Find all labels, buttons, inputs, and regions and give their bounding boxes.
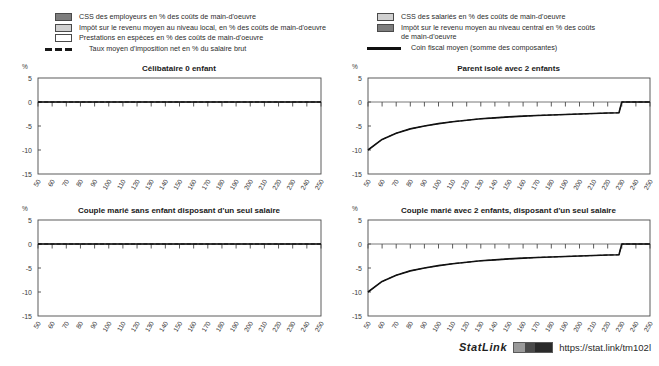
statlink-block[interactable]: StatLink https://stat.link/tm102l [459, 341, 651, 353]
svg-text:100: 100 [431, 320, 443, 333]
light-gray-swatch-icon [377, 13, 394, 21]
statlink-url-link[interactable]: https://stat.link/tm102l [559, 342, 651, 353]
svg-text:50: 50 [362, 178, 372, 188]
svg-text:150: 150 [501, 320, 513, 333]
svg-text:150: 150 [172, 320, 184, 333]
svg-text:210: 210 [586, 178, 598, 191]
svg-text:200: 200 [572, 178, 584, 191]
dashed-line-icon [55, 48, 72, 51]
svg-text:230: 230 [285, 320, 297, 333]
svg-text:240: 240 [628, 178, 640, 191]
svg-text:250: 250 [642, 178, 654, 191]
chart-panel-parent-isole-2-enfants: % Parent isolé avec 2 enfants 50-5-10-15… [330, 62, 659, 202]
svg-text:130: 130 [473, 178, 485, 191]
svg-text:130: 130 [143, 178, 155, 191]
legend-item-taux-moyen: Taux moyen d'imposition net en % du sala… [55, 44, 335, 54]
statlink-barcode-icon [513, 342, 553, 353]
svg-text:200: 200 [243, 178, 255, 191]
svg-text:90: 90 [89, 320, 99, 330]
chart-plot-0: 50-5-10-15506070809010011012013014015016… [0, 62, 330, 202]
dark-gray-swatch-icon [55, 13, 72, 21]
legend-item-label: Impôt sur le revenu moyen au niveau cent… [401, 23, 595, 42]
svg-text:220: 220 [600, 320, 612, 333]
legend-item-prestations: Prestations en espèces en % des coûts de… [55, 33, 335, 43]
svg-text:200: 200 [572, 320, 584, 333]
svg-text:150: 150 [172, 178, 184, 191]
svg-text:200: 200 [243, 320, 255, 333]
chart-footer: StatLink https://stat.link/tm102l [0, 338, 659, 364]
svg-text:160: 160 [515, 320, 527, 333]
svg-text:190: 190 [228, 178, 240, 191]
svg-text:5: 5 [28, 217, 32, 224]
svg-text:80: 80 [404, 320, 414, 330]
svg-text:50: 50 [32, 320, 42, 330]
svg-text:120: 120 [129, 320, 141, 333]
svg-text:230: 230 [285, 178, 297, 191]
svg-text:110: 110 [445, 178, 456, 191]
svg-text:250: 250 [313, 178, 325, 191]
svg-text:250: 250 [313, 320, 325, 333]
svg-text:250: 250 [642, 320, 654, 333]
svg-text:220: 220 [271, 320, 283, 333]
svg-text:-10: -10 [22, 147, 32, 154]
svg-text:240: 240 [299, 178, 311, 191]
svg-text:180: 180 [544, 320, 556, 333]
chart-plot-3: 50-5-10-15506070809010011012013014015016… [330, 204, 659, 344]
svg-text:210: 210 [257, 178, 269, 191]
svg-text:50: 50 [362, 320, 372, 330]
svg-text:5: 5 [358, 217, 362, 224]
svg-text:60: 60 [376, 178, 386, 188]
svg-text:80: 80 [75, 178, 85, 188]
chart-panel-couple-marie-sans-enfant: % Couple marié sans enfant disposant d'u… [0, 204, 330, 344]
svg-text:70: 70 [390, 320, 400, 330]
svg-text:0: 0 [28, 241, 32, 248]
svg-text:100: 100 [101, 178, 113, 191]
svg-text:60: 60 [376, 320, 386, 330]
svg-text:180: 180 [214, 320, 226, 333]
svg-text:80: 80 [404, 178, 414, 188]
svg-text:120: 120 [129, 178, 141, 191]
legend-item-label: Impôt sur le revenu moyen au niveau loca… [79, 23, 326, 33]
white-swatch-icon [55, 34, 72, 42]
svg-text:140: 140 [487, 320, 499, 333]
svg-text:220: 220 [271, 178, 283, 191]
svg-text:90: 90 [419, 320, 429, 330]
svg-text:210: 210 [257, 320, 269, 333]
svg-text:190: 190 [558, 178, 570, 191]
svg-text:120: 120 [459, 178, 471, 191]
svg-text:-5: -5 [26, 123, 32, 130]
chart-plot-1: 50-5-10-15506070809010011012013014015016… [330, 62, 659, 202]
svg-text:60: 60 [46, 320, 56, 330]
legend-item-coin-fiscal: Coin fiscal moyen (somme des composantes… [377, 43, 659, 53]
svg-text:50: 50 [32, 178, 42, 188]
svg-text:5: 5 [358, 75, 362, 82]
svg-text:-15: -15 [22, 171, 32, 178]
legend-item-impot-local: Impôt sur le revenu moyen au niveau loca… [55, 23, 335, 33]
legend-item-label: CSS des salariés en % des coûts de main-… [401, 12, 566, 22]
svg-text:220: 220 [600, 178, 612, 191]
svg-text:-5: -5 [26, 265, 32, 272]
svg-text:-10: -10 [352, 289, 362, 296]
legend-item-label: Taux moyen d'imposition net en % du sala… [79, 44, 246, 54]
svg-text:120: 120 [459, 320, 471, 333]
svg-text:-15: -15 [352, 313, 362, 320]
svg-text:-15: -15 [352, 171, 362, 178]
svg-text:140: 140 [487, 178, 499, 191]
svg-text:-15: -15 [22, 313, 32, 320]
svg-text:150: 150 [501, 178, 513, 191]
svg-text:-5: -5 [356, 265, 362, 272]
chart-legend: CSS des employeurs en % des coûts de mai… [0, 0, 659, 64]
svg-text:230: 230 [614, 178, 626, 191]
svg-text:-10: -10 [352, 147, 362, 154]
svg-text:190: 190 [558, 320, 570, 333]
svg-text:70: 70 [60, 320, 70, 330]
svg-text:130: 130 [473, 320, 485, 333]
legend-item-css-salaries: CSS des salariés en % des coûts de main-… [377, 12, 659, 22]
chart-panel-celibataire-0-enfant: % Célibataire 0 enfant 50-5-10-155060708… [0, 62, 330, 202]
svg-text:130: 130 [143, 320, 155, 333]
svg-text:240: 240 [628, 320, 640, 333]
svg-text:0: 0 [358, 241, 362, 248]
svg-text:180: 180 [544, 178, 556, 191]
svg-text:170: 170 [200, 178, 212, 191]
svg-text:240: 240 [299, 320, 311, 333]
